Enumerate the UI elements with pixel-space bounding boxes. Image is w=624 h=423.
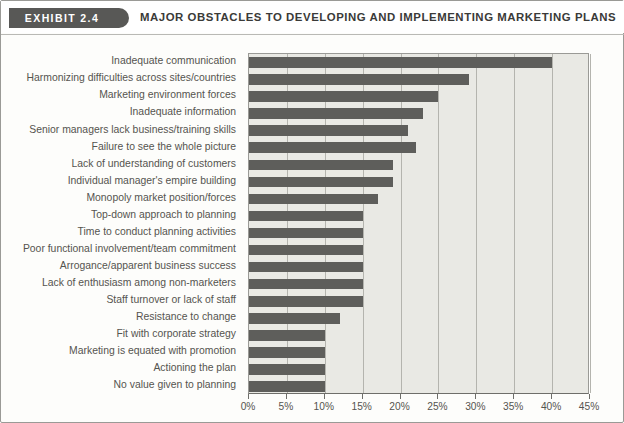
axis-tick-label: 10% — [314, 401, 334, 412]
bar — [249, 228, 363, 239]
category-label: Poor functional involvement/team commitm… — [23, 244, 236, 254]
category-label-row: Arrogance/apparent business success — [5, 258, 243, 275]
axis-tick-label: 15% — [351, 401, 371, 412]
bar — [249, 381, 325, 392]
gridline — [287, 54, 288, 393]
axis-tick-mark — [437, 394, 438, 399]
axis-tick-label: 45% — [579, 401, 599, 412]
axis-tick-mark — [286, 394, 287, 399]
axis-tick-label: 30% — [465, 401, 485, 412]
bar — [249, 296, 363, 307]
category-label-row: Resistance to change — [5, 309, 243, 326]
category-label: Harmonizing difficulties across sites/co… — [27, 73, 236, 83]
axis-tick-label: 0% — [241, 401, 256, 412]
exhibit-tag-label: EXHIBIT 2.4 — [25, 12, 99, 24]
gridline — [590, 54, 591, 393]
gridline — [514, 54, 515, 393]
exhibit-tag-curve — [111, 8, 129, 28]
plot-area — [248, 53, 589, 394]
axis-tick-mark — [589, 394, 590, 399]
axis-tick-mark — [400, 394, 401, 399]
category-label: Time to conduct planning activities — [78, 227, 236, 237]
category-label: Resistance to change — [136, 312, 236, 322]
gridline — [363, 54, 364, 393]
axis-tick-mark — [475, 394, 476, 399]
category-label-row: Time to conduct planning activities — [5, 224, 243, 241]
category-label-row: Lack of understanding of customers — [5, 155, 243, 172]
category-label: Lack of understanding of customers — [71, 159, 236, 169]
exhibit-header: EXHIBIT 2.4 MAJOR OBSTACLES TO DEVELOPIN… — [1, 1, 624, 33]
gridline — [401, 54, 402, 393]
category-label: Marketing is equated with promotion — [69, 346, 236, 356]
header-divider — [1, 34, 624, 35]
bar — [249, 262, 363, 273]
category-label-row: Poor functional involvement/team commitm… — [5, 241, 243, 258]
bar — [249, 245, 363, 256]
category-axis-labels: Inadequate communicationHarmonizing diff… — [5, 41, 243, 381]
axis-tick-mark — [324, 394, 325, 399]
bar — [249, 160, 393, 171]
category-label-row: Top-down approach to planning — [5, 206, 243, 223]
category-label: Actioning the plan — [153, 363, 236, 373]
bar — [249, 211, 363, 222]
category-label-row: Actioning the plan — [5, 360, 243, 377]
category-label: No value given to planning — [114, 380, 236, 390]
category-label-row: Marketing is equated with promotion — [5, 343, 243, 360]
category-label-row: No value given to planning — [5, 377, 243, 394]
category-label: Arrogance/apparent business success — [60, 261, 236, 271]
exhibit-tag-badge: EXHIBIT 2.4 — [9, 8, 115, 28]
category-label-row: Senior managers lack business/training s… — [5, 121, 243, 138]
gridline — [476, 54, 477, 393]
category-label: Inadequate communication — [111, 56, 236, 66]
category-label: Fit with corporate strategy — [116, 329, 236, 339]
category-label-row: Inadequate information — [5, 104, 243, 121]
exhibit-container: EXHIBIT 2.4 MAJOR OBSTACLES TO DEVELOPIN… — [0, 0, 624, 423]
bar — [249, 279, 363, 290]
category-label-row: Failure to see the whole picture — [5, 138, 243, 155]
category-label: Senior managers lack business/training s… — [29, 125, 236, 135]
category-label-row: Monopoly market position/forces — [5, 189, 243, 206]
gridline — [552, 54, 553, 393]
axis-tick-label: 40% — [541, 401, 561, 412]
category-label: Top-down approach to planning — [91, 210, 236, 220]
category-label: Lack of enthusiasm among non-marketers — [42, 278, 236, 288]
category-label: Marketing environment forces — [99, 90, 236, 100]
bar — [249, 108, 423, 119]
category-label: Individual manager's empire building — [68, 176, 236, 186]
bar — [249, 194, 378, 205]
value-axis: 0%5%10%15%20%25%30%35%40%45% — [248, 394, 589, 420]
axis-tick-mark — [362, 394, 363, 399]
category-label-row: Lack of enthusiasm among non-marketers — [5, 275, 243, 292]
bar — [249, 347, 325, 358]
category-label: Failure to see the whole picture — [92, 142, 236, 152]
category-label: Monopoly market position/forces — [86, 193, 236, 203]
bar — [249, 177, 393, 188]
category-label-row: Staff turnover or lack of staff — [5, 292, 243, 309]
axis-tick-mark — [513, 394, 514, 399]
bar — [249, 364, 325, 375]
gridline — [325, 54, 326, 393]
bar — [249, 313, 340, 324]
bar — [249, 125, 408, 136]
axis-tick-mark — [551, 394, 552, 399]
category-label-row: Marketing environment forces — [5, 87, 243, 104]
chart-area: Inadequate communicationHarmonizing diff… — [1, 41, 624, 421]
bar — [249, 74, 469, 85]
axis-tick-label: 20% — [389, 401, 409, 412]
category-label: Inadequate information — [130, 107, 236, 117]
category-label: Staff turnover or lack of staff — [106, 295, 236, 305]
category-label-row: Harmonizing difficulties across sites/co… — [5, 70, 243, 87]
bar — [249, 57, 552, 68]
axis-tick-label: 25% — [427, 401, 447, 412]
axis-tick-label: 5% — [279, 401, 294, 412]
gridline — [438, 54, 439, 393]
bar — [249, 330, 325, 341]
category-label-row: Individual manager's empire building — [5, 172, 243, 189]
bar — [249, 142, 416, 153]
bar — [249, 91, 438, 102]
category-label-row: Fit with corporate strategy — [5, 326, 243, 343]
category-label-row: Inadequate communication — [5, 53, 243, 70]
axis-tick-mark — [248, 394, 249, 399]
axis-tick-label: 35% — [503, 401, 523, 412]
chart-title: MAJOR OBSTACLES TO DEVELOPING AND IMPLEM… — [140, 11, 616, 23]
